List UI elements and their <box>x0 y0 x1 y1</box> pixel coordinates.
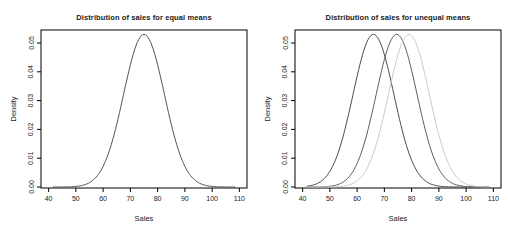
plot-box-and-ticks <box>291 30 501 192</box>
y-tick-label: 0.00 <box>282 180 289 194</box>
plot-box-and-ticks <box>37 30 247 192</box>
tick-labels: 4050607080901001100.000.010.020.030.040.… <box>282 36 500 202</box>
equal-means-plot: 4050607080901001100.000.010.020.030.040.… <box>0 0 254 234</box>
x-tick-label: 60 <box>99 195 107 202</box>
x-axis-label: Sales <box>288 214 508 223</box>
x-tick-label: 110 <box>488 195 499 202</box>
x-tick-label: 70 <box>380 195 388 202</box>
y-tick-label: 0.04 <box>282 65 289 79</box>
x-tick-label: 60 <box>353 195 361 202</box>
y-tick-label: 0.01 <box>282 151 289 165</box>
x-tick-label: 50 <box>326 195 334 202</box>
x-tick-label: 100 <box>460 195 472 202</box>
y-tick-label: 0.03 <box>28 94 35 108</box>
unequal-means-plot: 4050607080901001100.000.010.020.030.040.… <box>254 0 508 234</box>
y-tick-label: 0.03 <box>282 94 289 108</box>
x-tick-label: 40 <box>45 195 53 202</box>
y-tick-label: 0.05 <box>282 36 289 50</box>
x-axis-label: Sales <box>34 214 254 223</box>
y-tick-label: 0.04 <box>28 65 35 79</box>
x-tick-label: 80 <box>408 195 416 202</box>
plot-box <box>41 30 247 188</box>
x-tick-label: 110 <box>234 195 245 202</box>
y-tick-label: 0.02 <box>28 122 35 136</box>
x-tick-label: 90 <box>435 195 443 202</box>
y-tick-label: 0.01 <box>28 151 35 165</box>
x-tick-label: 40 <box>299 195 307 202</box>
x-tick-label: 90 <box>181 195 189 202</box>
density-curve-sales-density <box>53 34 236 187</box>
x-tick-label: 70 <box>126 195 134 202</box>
x-tick-label: 50 <box>72 195 80 202</box>
y-tick-label: 0.05 <box>28 36 35 50</box>
density-curve-group-1-density <box>307 34 490 187</box>
y-tick-label: 0.02 <box>282 122 289 136</box>
tick-labels: 4050607080901001100.000.010.020.030.040.… <box>28 36 246 202</box>
figure-canvas: Distribution of sales for equal means De… <box>0 0 508 234</box>
x-tick-label: 100 <box>206 195 218 202</box>
y-tick-label: 0.00 <box>28 180 35 194</box>
panel-unequal-means: Distribution of sales for unequal means … <box>254 0 508 234</box>
x-tick-label: 80 <box>154 195 162 202</box>
panel-equal-means: Distribution of sales for equal means De… <box>0 0 254 234</box>
